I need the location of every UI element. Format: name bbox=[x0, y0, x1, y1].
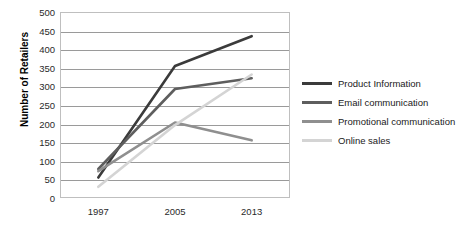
y-axis-tick-label: 150 bbox=[27, 138, 55, 147]
y-axis-tick-label: 0 bbox=[27, 194, 55, 203]
y-axis-tick-label: 500 bbox=[27, 8, 55, 17]
legend-item[interactable]: Promotional communication bbox=[302, 112, 472, 131]
chart-legend: Product InformationEmail communicationPr… bbox=[302, 74, 472, 150]
y-axis-tick-label: 200 bbox=[27, 120, 55, 129]
series-lines bbox=[60, 12, 290, 198]
legend-color-swatch bbox=[302, 101, 332, 104]
legend-label: Email communication bbox=[338, 97, 428, 108]
y-axis-tick-label: 350 bbox=[27, 64, 55, 73]
y-axis-tick-label: 250 bbox=[27, 101, 55, 110]
y-axis-tick-label: 450 bbox=[27, 27, 55, 36]
legend-color-swatch bbox=[302, 139, 332, 142]
y-axis-tick-label: 50 bbox=[27, 175, 55, 184]
legend-color-swatch bbox=[302, 120, 332, 123]
line-chart: Number of Retailers 50045040035030025020… bbox=[0, 0, 474, 234]
y-axis-tick-label: 400 bbox=[27, 45, 55, 54]
legend-item[interactable]: Product Information bbox=[302, 74, 472, 93]
legend-label: Promotional communication bbox=[338, 116, 455, 127]
x-axis-tick-label: 1997 bbox=[68, 206, 128, 217]
y-axis-title: Number of Retailers bbox=[19, 0, 30, 160]
y-axis-tick-label: 300 bbox=[27, 82, 55, 91]
legend-label: Product Information bbox=[338, 78, 421, 89]
y-axis-tick-label: 100 bbox=[27, 157, 55, 166]
legend-item[interactable]: Email communication bbox=[302, 93, 472, 112]
legend-color-swatch bbox=[302, 82, 332, 85]
x-axis-tick-label: 2013 bbox=[222, 206, 282, 217]
legend-item[interactable]: Online sales bbox=[302, 131, 472, 150]
x-axis-tick-label: 2005 bbox=[145, 206, 205, 217]
series-line bbox=[98, 75, 251, 187]
legend-label: Online sales bbox=[338, 135, 390, 146]
